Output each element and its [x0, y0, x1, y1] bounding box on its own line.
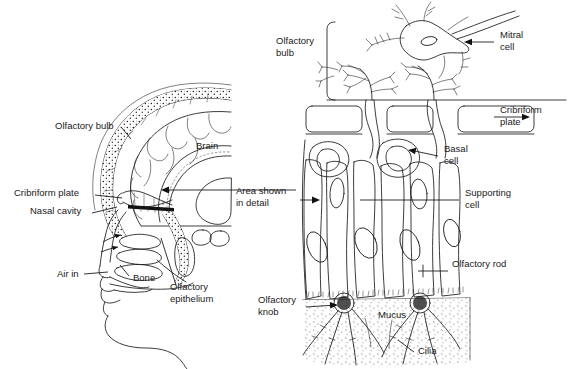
label-olfactory-bulb-right-line1: Olfactory — [276, 35, 314, 46]
glomerular-tufts — [316, 62, 460, 100]
label-basal-cell-line2: cell — [444, 155, 458, 166]
olfactory-epithelium-detail: Olfactory bulb Mitral cell Cribriform pl… — [258, 2, 566, 366]
label-olfactory-bulb-left: Olfactory bulb — [55, 120, 114, 131]
olfactory-bulb-structure — [117, 191, 172, 208]
label-brain: Brain — [196, 140, 218, 151]
area-shown-in-detail-connector: Area shown in detail — [161, 185, 320, 208]
head-sagittal-section: Olfactory bulb Brain Cribriform plate Na… — [14, 83, 231, 369]
connector-line1: Area shown — [236, 185, 286, 196]
label-cribriform-plate-left: Cribriform plate — [14, 187, 79, 198]
label-olfactory-epithelium-line1: Olfactory — [170, 281, 208, 292]
label-supporting-cell-line1: Supporting — [465, 187, 511, 198]
label-cribriform-plate-right-line1: Cribriform — [500, 104, 542, 115]
connector-arrow-head — [312, 196, 320, 203]
label-olfactory-knob-line2: knob — [258, 306, 279, 317]
label-mitral-cell-line1: Mitral — [500, 29, 523, 40]
label-olfactory-epithelium-line2: epithelium — [170, 293, 213, 304]
label-olfactory-knob-line1: Olfactory — [258, 294, 296, 305]
olfactory-axon-bundles — [365, 100, 446, 158]
cerebrum — [130, 112, 231, 247]
skull-vault — [93, 83, 231, 236]
label-olfactory-rod: Olfactory rod — [452, 258, 506, 269]
label-mitral-cell-line2: cell — [500, 41, 514, 52]
label-bone: Bone — [133, 272, 155, 283]
label-cilia: Cilia — [418, 345, 437, 356]
label-basal-cell-line1: Basal — [444, 143, 468, 154]
label-cribriform-plate-right-line2: plate — [500, 116, 521, 127]
mitral-cell-body — [366, 2, 519, 78]
diagram-svg: Olfactory bulb Brain Cribriform plate Na… — [0, 0, 578, 369]
label-olfactory-bulb-right-line2: bulb — [276, 47, 294, 58]
label-air-in: Air in — [57, 268, 79, 279]
olfactory-bulb-bracket — [327, 22, 335, 100]
supporting-cells — [304, 160, 460, 299]
label-mucus: Mucus — [378, 309, 406, 320]
connector-line2: in detail — [236, 197, 269, 208]
label-supporting-cell-line2: cell — [465, 199, 479, 210]
figure-canvas: Olfactory bulb Brain Cribriform plate Na… — [0, 0, 578, 369]
label-nasal-cavity: Nasal cavity — [30, 205, 81, 216]
